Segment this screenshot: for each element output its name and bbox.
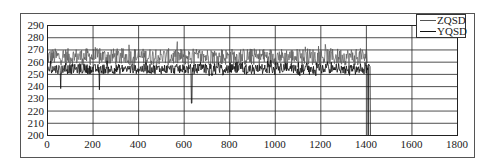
- x-tick-label: 800: [221, 138, 238, 150]
- y-tick-label: 270: [28, 43, 45, 55]
- x-tick-label: 400: [130, 138, 147, 150]
- y-tick-label: 250: [28, 68, 45, 80]
- x-tick-label: 1200: [309, 138, 332, 150]
- y-tick-label: 290: [28, 19, 45, 31]
- x-tick-label: 1800: [446, 138, 469, 150]
- y-tick-label: 240: [28, 80, 45, 92]
- x-tick-label: 1400: [355, 138, 378, 150]
- y-tick-label: 260: [28, 56, 45, 68]
- x-tick-label: 1600: [400, 138, 423, 150]
- legend-label-yqsd: YQSD: [437, 25, 467, 37]
- x-tick-label: 0: [44, 138, 50, 150]
- y-tick-label: 280: [28, 31, 45, 43]
- y-tick-label: 230: [28, 92, 45, 104]
- line-chart: 200210220230240250260270280290 020040060…: [0, 0, 491, 167]
- y-axis-ticks: 200210220230240250260270280290: [28, 19, 45, 141]
- x-tick-label: 1000: [264, 138, 287, 150]
- x-tick-label: 200: [84, 138, 101, 150]
- y-tick-label: 220: [28, 105, 45, 117]
- y-tick-label: 210: [28, 117, 45, 129]
- y-tick-label: 200: [28, 129, 45, 141]
- legend: ZQSD YQSD: [417, 14, 468, 38]
- x-tick-label: 600: [175, 138, 192, 150]
